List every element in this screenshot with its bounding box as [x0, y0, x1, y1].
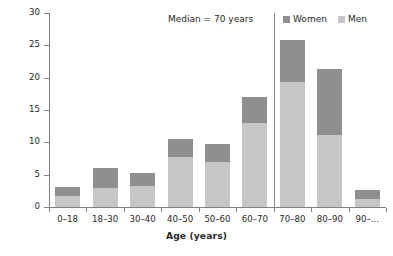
bar-segment-women[interactable] [168, 139, 193, 156]
x-axis-tick [199, 208, 200, 212]
bar-segment-women[interactable] [205, 144, 230, 162]
legend-item[interactable]: Women [283, 14, 327, 25]
bar-segment-women[interactable] [280, 40, 305, 82]
legend-item-label: Women [293, 14, 327, 25]
y-axis-tick-label: 25 [18, 40, 40, 49]
x-axis-tick [161, 208, 162, 212]
legend-swatch-icon [338, 16, 345, 23]
y-axis-tick [44, 142, 49, 143]
bar-segment-men[interactable] [130, 186, 155, 207]
bar-segment-men[interactable] [317, 135, 342, 207]
chart-container: % of resuscitations 051015202530 Median … [0, 0, 393, 256]
bar-segment-women[interactable] [355, 190, 380, 199]
y-axis-tick-label: 0 [18, 202, 40, 211]
median-label: Median = 70 years [168, 14, 253, 25]
bar-group[interactable] [205, 144, 230, 207]
bar-segment-men[interactable] [280, 82, 305, 207]
x-axis-tick-label: 30–40 [124, 214, 161, 224]
x-axis-tick-label: 60–70 [236, 214, 273, 224]
x-axis-tick [236, 208, 237, 212]
legend-item[interactable]: Men [338, 14, 367, 25]
x-axis-tick [124, 208, 125, 212]
legend-swatch-icon [283, 16, 290, 23]
chart-legend: WomenMen [283, 14, 367, 25]
x-axis-tick-label: 40–50 [161, 214, 198, 224]
x-axis-tick [311, 208, 312, 212]
bar-segment-women[interactable] [55, 187, 80, 196]
y-axis-tick [44, 13, 49, 14]
x-axis-title: Age (years) [0, 230, 393, 241]
y-axis-tick-label: 20 [18, 73, 40, 82]
y-axis-tick [44, 175, 49, 176]
bar-group[interactable] [55, 187, 80, 207]
y-axis-tick-label: 10 [18, 137, 40, 146]
x-axis-tick-label: 90–... [349, 214, 386, 224]
y-axis-line [49, 13, 50, 208]
bar-group[interactable] [280, 40, 305, 207]
x-axis-tick [49, 208, 50, 212]
y-axis-tick-label: 5 [18, 170, 40, 179]
bar-segment-women[interactable] [242, 97, 267, 123]
bar-segment-men[interactable] [205, 162, 230, 207]
bar-group[interactable] [242, 97, 267, 207]
bar-segment-men[interactable] [355, 199, 380, 207]
bar-group[interactable] [130, 173, 155, 207]
y-axis-tick [44, 45, 49, 46]
bar-segment-men[interactable] [168, 157, 193, 207]
x-axis-tick-label: 70–80 [274, 214, 311, 224]
x-axis-tick-label: 0–18 [49, 214, 86, 224]
x-axis-tick-label: 80–90 [311, 214, 348, 224]
bar-group[interactable] [355, 190, 380, 207]
bar-segment-women[interactable] [93, 168, 118, 187]
legend-item-label: Men [348, 14, 367, 25]
y-axis-tick-label: 30 [18, 8, 40, 17]
bar-group[interactable] [93, 168, 118, 207]
y-axis-tick-label: 15 [18, 105, 40, 114]
x-axis-tick-label: 18–30 [86, 214, 123, 224]
bar-segment-men[interactable] [93, 188, 118, 207]
x-axis-tick [386, 208, 387, 212]
x-axis-line [49, 207, 386, 208]
x-axis-tick [86, 208, 87, 212]
median-line [274, 13, 275, 207]
x-axis-tick [349, 208, 350, 212]
y-axis-tick [44, 110, 49, 111]
bar-segment-men[interactable] [242, 123, 267, 207]
y-axis-tick [44, 78, 49, 79]
bar-group[interactable] [317, 69, 342, 207]
x-axis-tick [274, 208, 275, 212]
bar-segment-women[interactable] [130, 173, 155, 185]
bar-segment-men[interactable] [55, 196, 80, 207]
bar-segment-women[interactable] [317, 69, 342, 134]
bar-group[interactable] [168, 139, 193, 207]
x-axis-tick-label: 50–60 [199, 214, 236, 224]
